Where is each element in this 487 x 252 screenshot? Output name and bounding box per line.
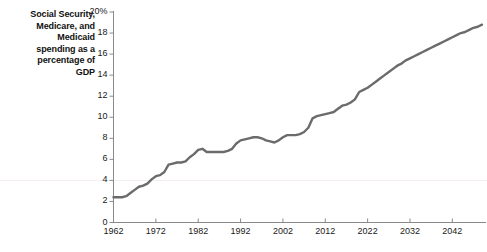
x-tick-label: 1992 [221,226,261,236]
y-tick-label: 18 [97,27,107,37]
x-tick-marks [114,219,453,223]
y-tick-label: 8 [102,132,107,142]
y-tick-label: 12 [97,90,107,100]
y-tick-label: 6 [102,153,107,163]
y-tick-label: 2 [102,195,107,205]
y-tick-label: 20% [89,6,107,16]
chart-figure: Social Security, Medicare, and Medicaid … [0,0,487,252]
y-tick-label: 4 [102,174,107,184]
y-tick-label: 10 [97,111,107,121]
x-tick-label: 1962 [94,226,134,236]
data-series-line [114,25,483,198]
x-tick-label: 2022 [348,226,388,236]
x-tick-label: 2002 [263,226,303,236]
x-tick-label: 1982 [178,226,218,236]
x-tick-label: 2042 [432,226,472,236]
y-tick-label: 16 [97,48,107,58]
x-tick-label: 2032 [390,226,430,236]
plot-area [0,0,487,252]
y-tick-marks [110,12,114,223]
y-tick-label: 14 [97,69,107,79]
x-tick-label: 1972 [136,226,176,236]
x-tick-label: 2012 [305,226,345,236]
